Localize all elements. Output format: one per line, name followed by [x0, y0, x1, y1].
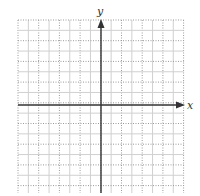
- coordinate-grid: x y: [0, 0, 200, 196]
- x-axis-label: x: [187, 99, 194, 112]
- y-axis-label: y: [96, 5, 104, 18]
